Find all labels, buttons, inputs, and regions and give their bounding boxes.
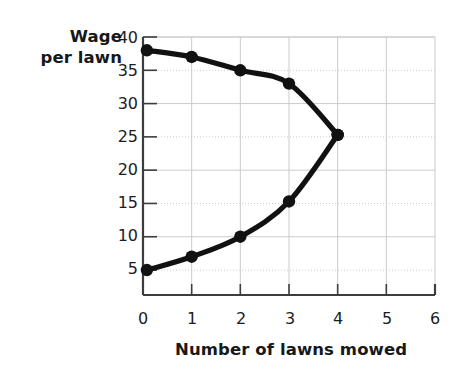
plot-area [0, 0, 460, 369]
data-point-lower-branch-3 [283, 195, 295, 207]
data-point-upper-branch-2 [234, 64, 246, 76]
curve-lower-branch [147, 135, 338, 270]
wage-per-lawn-chart: Wage per lawn 40 35 30 25 20 15 10 5 0 1… [0, 0, 460, 369]
x-axis-title: Number of lawns mowed [175, 340, 460, 359]
data-point-upper-branch-3 [283, 77, 295, 89]
data-point-lower-branch-1 [185, 251, 197, 263]
data-point-lower-branch-0 [141, 264, 153, 276]
data-point-upper-branch-1 [185, 51, 197, 63]
data-point-lower-branch-2 [234, 231, 246, 243]
data-point-upper-branch-0 [141, 44, 153, 56]
data-markers [141, 44, 344, 276]
curve-upper-branch [147, 50, 338, 135]
data-point-lower-branch-4 [331, 129, 343, 141]
